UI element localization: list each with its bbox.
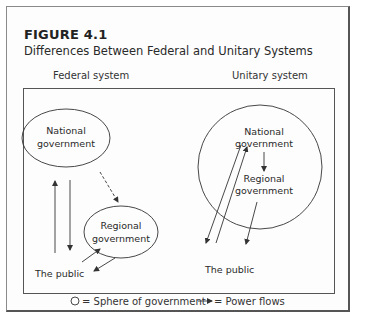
unitary-regional-label-2: government <box>235 185 293 196</box>
flow-national-to-regional-dashed-arrow <box>100 172 118 202</box>
flow-regional-to-public-arrow <box>94 258 115 271</box>
flow-unitary-regional-to-public-arrow <box>246 202 257 244</box>
unitary-national-label-2: government <box>235 138 293 149</box>
diagram-canvas: National government Regional government … <box>0 0 365 335</box>
federal-public-label: The public <box>34 268 84 279</box>
legend-flow-label: = Power flows <box>214 296 285 307</box>
regional-government-sphere <box>84 206 158 258</box>
unitary-government-sphere <box>198 105 322 229</box>
federal-national-label-2: government <box>37 138 95 149</box>
unitary-public-label: The public <box>204 264 254 275</box>
federal-national-label-1: National <box>46 125 86 136</box>
legend-sphere-label: = Sphere of government <box>82 296 206 307</box>
unitary-regional-label-1: Regional <box>244 173 285 184</box>
unitary-system-diagram: National government Regional government … <box>198 105 322 275</box>
legend-sphere-icon <box>71 297 79 305</box>
federal-regional-label-1: Regional <box>101 220 142 231</box>
flow-public-to-regional-arrow <box>82 249 100 262</box>
federal-regional-label-2: government <box>92 233 150 244</box>
federal-system-diagram: National government Regional government … <box>22 109 158 279</box>
unitary-national-label-1: National <box>244 126 284 137</box>
